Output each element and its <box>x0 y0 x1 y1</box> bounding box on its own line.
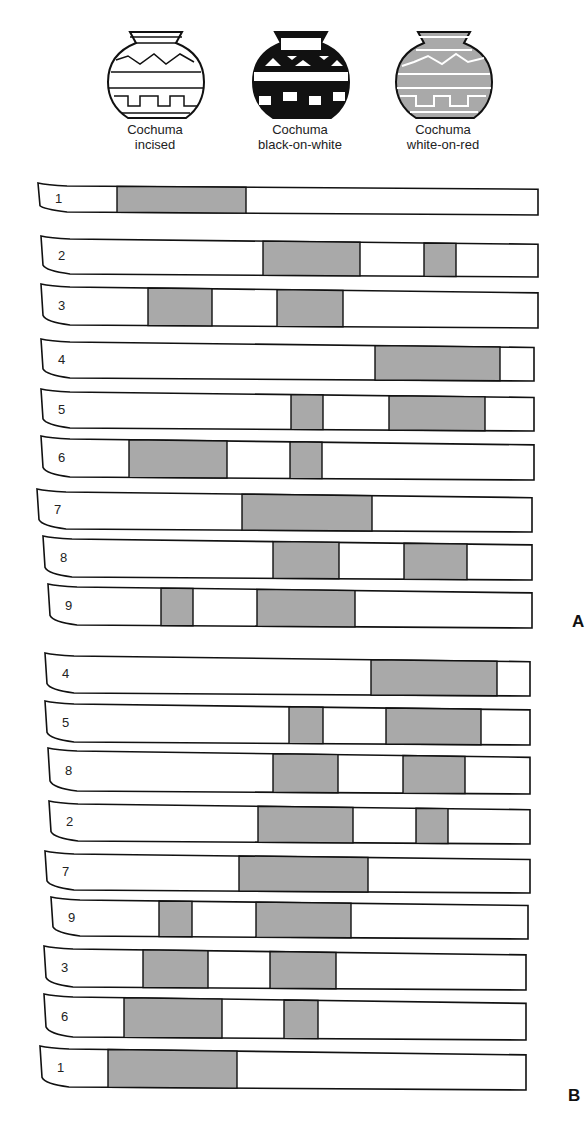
frequency-bar <box>273 542 339 579</box>
frame-label-a: A <box>572 612 584 632</box>
frequency-bar <box>273 754 338 793</box>
label-line-2: black-on-white <box>230 137 370 152</box>
frequency-bar <box>143 950 208 988</box>
label-line-1: Cochuma <box>230 122 370 137</box>
label-line-1: Cochuma <box>85 122 225 137</box>
frequency-bar <box>289 707 323 744</box>
frequency-bar <box>424 243 456 277</box>
frequency-bar <box>277 290 343 327</box>
pot-label-black-on-white: Cochuma black-on-white <box>230 122 370 152</box>
frequency-bar <box>108 1050 237 1089</box>
strip-number: 9 <box>68 910 75 925</box>
frequency-bar <box>404 543 467 579</box>
pot-icon-white-on-red <box>388 10 498 120</box>
frequency-bar <box>375 346 500 381</box>
pot-label-white-on-red: Cochuma white-on-red <box>373 122 513 152</box>
frequency-bar <box>124 998 222 1038</box>
strip-number: 3 <box>61 960 68 975</box>
frequency-bar <box>161 588 193 626</box>
frequency-bar <box>239 856 368 892</box>
pot-icon-black-on-white <box>245 10 355 120</box>
strip-number: 1 <box>57 1060 64 1075</box>
frequency-bar <box>386 708 481 745</box>
strip-number: 5 <box>58 402 65 417</box>
frequency-bar <box>371 660 497 696</box>
frequency-bar <box>291 395 323 430</box>
strip-number: 2 <box>58 248 65 263</box>
frame-label-b: B <box>568 1086 580 1106</box>
frequency-bar <box>159 901 192 937</box>
strip-number: 8 <box>60 550 67 565</box>
strip-number: 6 <box>61 1009 68 1024</box>
pot-label-incised: Cochuma incised <box>85 122 225 152</box>
strip-number: 1 <box>55 191 62 206</box>
strip-number: 7 <box>62 864 69 879</box>
strip-number: 9 <box>65 598 72 613</box>
strip-number: 2 <box>66 814 73 829</box>
frequency-bar <box>258 806 353 843</box>
strip-number: 7 <box>54 502 61 517</box>
pot-icon-incised <box>100 10 210 120</box>
frequency-bar <box>148 288 212 326</box>
strip-number: 6 <box>58 450 65 465</box>
frequency-bar <box>389 396 485 431</box>
strip-number: 4 <box>58 352 65 367</box>
strip-number: 4 <box>62 666 69 681</box>
frequency-bar <box>284 1000 318 1039</box>
frequency-bar <box>257 589 355 626</box>
frequency-bar <box>263 241 360 276</box>
frequency-bar <box>290 442 322 479</box>
frequency-bar <box>256 902 351 938</box>
frequency-bar <box>270 952 336 989</box>
strip-number: 8 <box>65 763 72 778</box>
frequency-bar <box>117 186 246 213</box>
frequency-bar <box>242 494 372 531</box>
label-line-1: Cochuma <box>373 122 513 137</box>
frequency-bar <box>403 756 465 794</box>
label-line-2: white-on-red <box>373 137 513 152</box>
strip-number: 3 <box>58 298 65 313</box>
frequency-bar <box>416 808 448 843</box>
label-line-2: incised <box>85 137 225 152</box>
frequency-bar <box>129 440 227 478</box>
strip-number: 5 <box>62 715 69 730</box>
